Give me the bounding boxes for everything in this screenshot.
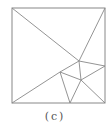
segment-TL-A	[12, 8, 79, 61]
triangulated-square-diagram	[0, 0, 110, 110]
figure-caption: (c)	[0, 110, 110, 123]
interior-segments	[12, 8, 105, 103]
segment-C-A	[60, 61, 79, 72]
segment-C-E	[60, 72, 70, 103]
segment-TR-A	[79, 8, 105, 61]
outer-square	[12, 8, 105, 103]
segment-BL-C	[12, 72, 60, 103]
segment-B-E	[70, 80, 81, 103]
segment-C-B	[60, 72, 81, 80]
segment-B-D	[81, 66, 105, 80]
segment-A-B	[79, 61, 81, 80]
segment-A-D	[79, 61, 105, 66]
segment-B-BR	[81, 80, 105, 103]
